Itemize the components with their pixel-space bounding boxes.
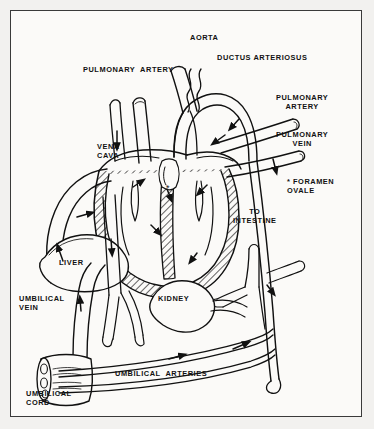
descending-aorta	[249, 161, 281, 393]
label-umbilical-vein: UMBILICAL VEIN	[19, 294, 65, 313]
label-vena-cava: VENA CAVA	[97, 142, 120, 161]
pulmonary-trunk	[171, 67, 197, 113]
label-to-intestine: TO INTESTINE	[233, 207, 277, 226]
label-pulmonary-artery-left: PULMONARY ARTERY	[83, 65, 174, 74]
label-pulmonary-artery-right: PULMONARY ARTERY	[276, 93, 328, 112]
label-kidney: KIDNEY	[158, 294, 189, 303]
label-pulmonary-vein: PULMONARY VEIN	[276, 130, 328, 149]
aortic-arch	[174, 94, 257, 161]
label-aorta: AORTA	[190, 33, 218, 42]
label-ductus-arteriosus: DUCTUS ARTERIOSUS	[217, 53, 307, 62]
figure-page: * AORTA DUCTUS ARTERIOSUS PULMONARY ARTE…	[0, 0, 374, 429]
label-liver: LIVER	[59, 258, 84, 267]
ductus-arteriosus-vessel	[187, 69, 201, 112]
fetal-circulation-drawing: *	[11, 11, 363, 418]
pulmonary-artery-left-vessel	[133, 98, 151, 163]
figure-frame: * AORTA DUCTUS ARTERIOSUS PULMONARY ARTE…	[10, 10, 362, 417]
foramen-ovale-asterisk: *	[166, 183, 170, 193]
interventricular-septum	[161, 179, 175, 279]
kidney-organ	[150, 281, 215, 332]
pulmonary-vein-vessel	[225, 151, 305, 177]
label-umbilical-arteries: UMBILICAL ARTERIES	[115, 369, 207, 378]
label-umbilical-cord: UMBILICAL CORD	[26, 389, 72, 408]
label-foramen-ovale: * FORAMEN OVALE	[287, 177, 334, 196]
